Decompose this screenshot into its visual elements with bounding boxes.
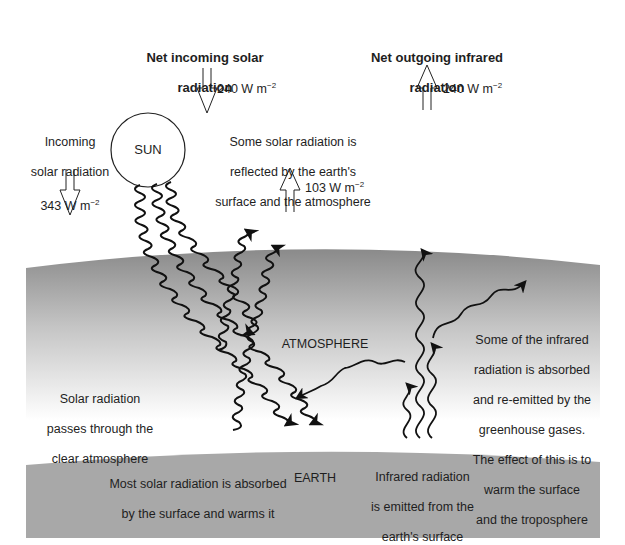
- greenhouse-line2: radiation is absorbed: [462, 363, 602, 378]
- reflected-line2: reflected by the earth's: [213, 165, 373, 180]
- greenhouse-line6: warm the surface: [462, 483, 602, 498]
- reflected-description: Some solar radiation is reflected by the…: [213, 120, 373, 225]
- infrared-line3: earth's surface: [365, 530, 480, 545]
- greenhouse-line4: greenhouse gases.: [462, 423, 602, 438]
- sun-label: SUN: [118, 142, 178, 157]
- net-outgoing-value-number: 240 W m: [443, 82, 493, 96]
- net-outgoing-value-exponent: −2: [493, 81, 502, 90]
- net-outgoing-value: 240 W m−2: [443, 81, 502, 96]
- net-outgoing-header-line1: Net outgoing infrared: [362, 50, 512, 65]
- net-outgoing-header: Net outgoing infrared radiation: [362, 35, 512, 110]
- passes-line2: passes through the: [40, 422, 160, 437]
- incoming-line2: solar radiation: [20, 165, 120, 180]
- earth-label: EARTH: [285, 471, 345, 486]
- incoming-value-number: 343 W m: [40, 199, 90, 213]
- infrared-emitted-description: Infrared radiation is emitted from the e…: [365, 455, 480, 545]
- net-incoming-value-exponent: −2: [267, 81, 276, 90]
- greenhouse-line5: The effect of this is to: [462, 453, 602, 468]
- net-incoming-header: Net incoming solar radiation: [140, 35, 270, 110]
- absorbed-description: Most solar radiation is absorbed by the …: [108, 462, 288, 537]
- infrared-line1: Infrared radiation: [365, 470, 480, 485]
- absorbed-line1: Most solar radiation is absorbed: [108, 477, 288, 492]
- incoming-value-exponent: −2: [90, 198, 99, 207]
- net-incoming-value: 240 W m−2: [217, 81, 276, 96]
- incoming-solar-label: Incoming solar radiation 343 W m−2: [20, 120, 120, 229]
- incoming-line1: Incoming: [20, 135, 120, 150]
- infrared-line2: is emitted from the: [365, 500, 480, 515]
- greenhouse-description: Some of the infrared radiation is absorb…: [462, 318, 602, 543]
- greenhouse-line1: Some of the infrared: [462, 333, 602, 348]
- greenhouse-line3: and re-emitted by the: [462, 393, 602, 408]
- net-incoming-header-line1: Net incoming solar: [140, 50, 270, 65]
- reflected-line3: surface and the atmosphere: [213, 195, 373, 210]
- greenhouse-line7: and the troposphere: [462, 513, 602, 528]
- incoming-value: 343 W m−2: [20, 195, 120, 214]
- atmosphere-label: ATMOSPHERE: [275, 337, 375, 352]
- passes-line1: Solar radiation: [40, 392, 160, 407]
- absorbed-line2: by the surface and warms it: [108, 507, 288, 522]
- net-incoming-value-number: 240 W m: [217, 82, 267, 96]
- reflected-line1: Some solar radiation is: [213, 135, 373, 150]
